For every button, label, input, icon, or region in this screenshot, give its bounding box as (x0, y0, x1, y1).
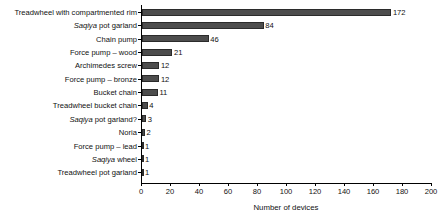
x-axis-tick (257, 183, 258, 186)
y-axis-tick (138, 105, 141, 106)
x-axis-tick-label: 140 (338, 187, 351, 197)
plot-area: Treadwheel with compartmented rim172Saqi… (141, 6, 431, 181)
category-label: Treadwheel pot garland (57, 166, 137, 179)
bar-row: Bucket chain11 (141, 86, 431, 99)
y-axis-tick (138, 159, 141, 160)
bar-row: Force pump – bronze12 (141, 73, 431, 86)
bar-value-label: 12 (161, 59, 169, 72)
bar-value-label: 172 (393, 6, 406, 19)
bar-row: Archimedes screw12 (141, 59, 431, 72)
bar-row: Force pump – wood21 (141, 46, 431, 59)
bar (142, 169, 144, 176)
y-axis-tick (138, 132, 141, 133)
y-axis-tick (138, 146, 141, 147)
x-axis-tick-label: 40 (195, 187, 203, 197)
bar (142, 115, 146, 122)
x-axis-tick (286, 183, 287, 186)
bar (142, 75, 159, 82)
x-axis-tick (344, 183, 345, 186)
category-label: Force pump – wood (70, 46, 137, 59)
x-axis-tick-label: 100 (280, 187, 293, 197)
bar-value-label: 1 (145, 140, 149, 153)
category-label: Treadwheel with compartmented rim (14, 6, 137, 19)
bar-value-label: 11 (159, 86, 167, 99)
bar-value-label: 12 (161, 73, 169, 86)
bar-row: Saqiya pot garland84 (141, 19, 431, 32)
bar-value-label: 84 (265, 19, 273, 32)
category-label: Saqiya wheel (92, 153, 137, 166)
category-label: Force pump – lead (74, 140, 137, 153)
bar-value-label: 1 (145, 166, 149, 179)
bar-row: Treadwheel with compartmented rim172 (141, 6, 431, 19)
y-axis-tick (138, 92, 141, 93)
bar (142, 49, 172, 56)
x-axis-tick-label: 180 (396, 187, 409, 197)
bar-row: Force pump – lead1 (141, 140, 431, 153)
bar (142, 89, 158, 96)
bar (142, 102, 148, 109)
category-label: Force pump – bronze (65, 73, 137, 86)
x-axis-tick-label: 160 (367, 187, 380, 197)
category-label: Noria (119, 126, 137, 139)
bar (142, 129, 145, 136)
y-axis-tick (138, 39, 141, 40)
x-axis-tick (402, 183, 403, 186)
category-label: Chain pump (96, 33, 137, 46)
bar-row: Saqiya pot garland?3 (141, 113, 431, 126)
x-axis-tick (141, 183, 142, 186)
bar-row: Noria2 (141, 126, 431, 139)
x-axis-tick (315, 183, 316, 186)
x-axis-tick (228, 183, 229, 186)
y-axis-tick (138, 52, 141, 53)
x-axis-tick-label: 80 (253, 187, 261, 197)
x-axis-tick-label: 120 (309, 187, 322, 197)
x-axis-tick (199, 183, 200, 186)
x-axis-title: Number of devices (141, 203, 431, 212)
bar-value-label: 4 (149, 99, 153, 112)
bar-row: Chain pump46 (141, 33, 431, 46)
y-axis-tick (138, 12, 141, 13)
bar (142, 9, 391, 16)
x-axis-tick (431, 183, 432, 186)
x-axis-tick-label: 200 (425, 187, 438, 197)
category-label: Saqiya pot garland (74, 19, 137, 32)
category-label: Bucket chain (94, 86, 137, 99)
y-axis-tick (138, 25, 141, 26)
category-label: Treadwheel bucket chain (53, 99, 137, 112)
bar-value-label: 2 (146, 126, 150, 139)
x-axis-tick-label: 20 (166, 187, 174, 197)
x-axis-tick (373, 183, 374, 186)
y-axis-tick (138, 79, 141, 80)
bar-row: Saqiya wheel1 (141, 153, 431, 166)
bar (142, 142, 144, 149)
bar (142, 22, 264, 29)
bar-row: Treadwheel bucket chain4 (141, 99, 431, 112)
bar-chart: Treadwheel with compartmented rim172Saqi… (0, 0, 447, 221)
x-axis-tick (170, 183, 171, 186)
category-label: Archimedes screw (75, 59, 137, 72)
bar-value-label: 3 (148, 113, 152, 126)
y-axis-tick (138, 119, 141, 120)
bar (142, 35, 209, 42)
bar-value-label: 1 (145, 153, 149, 166)
category-label: Saqiya pot garland? (69, 113, 137, 126)
bar (142, 62, 159, 69)
y-axis-tick (138, 172, 141, 173)
x-axis-tick-label: 0 (139, 187, 143, 197)
bar-value-label: 21 (174, 46, 182, 59)
x-axis-tick-label: 60 (224, 187, 232, 197)
bar (142, 155, 144, 162)
y-axis-tick (138, 65, 141, 66)
bar-value-label: 46 (210, 33, 218, 46)
bar-row: Treadwheel pot garland1 (141, 166, 431, 179)
